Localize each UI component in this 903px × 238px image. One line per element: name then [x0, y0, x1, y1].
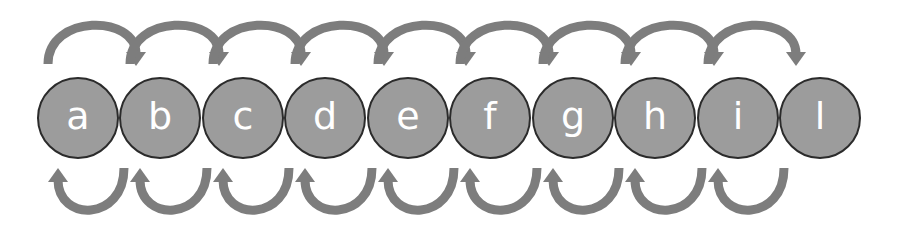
linked-list-diagram: abcdefghil	[0, 0, 903, 238]
node-label-i: i	[698, 78, 778, 158]
node-label-g: g	[533, 78, 613, 158]
node-label-l: l	[780, 78, 860, 158]
node-label-c: c	[203, 78, 283, 158]
node-label-f: f	[450, 78, 530, 158]
node-label-d: d	[285, 78, 365, 158]
node-label-b: b	[120, 78, 200, 158]
node-label-h: h	[615, 78, 695, 158]
node-label-e: e	[368, 78, 448, 158]
node-label-a: a	[38, 78, 118, 158]
